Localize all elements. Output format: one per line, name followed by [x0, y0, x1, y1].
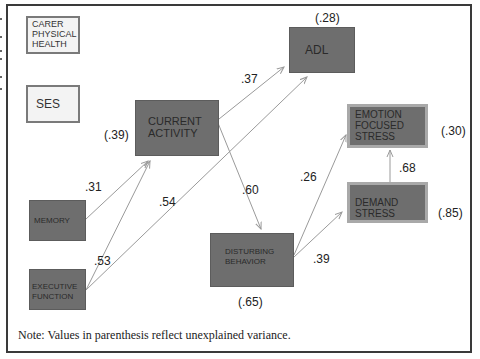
node-text: STRESS	[355, 131, 425, 142]
node-text: ACTIVITY	[148, 127, 218, 139]
node-text: CURRENT	[148, 115, 218, 127]
node-text: FUNCTION	[32, 292, 85, 302]
coef-executive-to-current-activity: .53	[94, 254, 111, 268]
coef-executive-to-adl: .54	[159, 195, 176, 209]
coef-current-activity-to-disturbing: .60	[242, 183, 259, 197]
coef-memory-to-current-activity: .31	[85, 180, 102, 194]
node-text: EMOTION	[355, 109, 425, 120]
arrow-disturbing-to-demand	[294, 212, 342, 257]
arrow-current-activity-to-disturbing	[218, 123, 261, 229]
node-current-activity: CURRENT ACTIVITY	[135, 100, 219, 156]
node-disturbing-behavior: DISTURBING BEHAVIOR	[210, 233, 294, 287]
node-emotion-focused-stress: EMOTION FOCUSED STRESS	[347, 104, 428, 148]
coef-demand-to-emotion: .68	[399, 161, 416, 175]
coef-disturbing-to-emotion: .26	[300, 170, 317, 184]
node-text: FOCUSED	[355, 120, 425, 131]
coef-disturbing-to-demand: .39	[313, 252, 330, 266]
node-text: PHYSICAL	[32, 29, 78, 39]
node-text: DISTURBING	[225, 247, 293, 257]
coef-current-activity-to-adl: .37	[241, 72, 258, 86]
variance-adl: (.28)	[315, 11, 340, 25]
node-text: SES	[36, 98, 78, 110]
node-adl: ADL	[289, 27, 355, 73]
node-text: HEALTH	[32, 39, 78, 49]
variance-current-activity: (.39)	[104, 128, 129, 142]
node-executive-function: EXECUTIVE FUNCTION	[29, 269, 86, 310]
node-text: CARER	[32, 19, 78, 29]
diagram-note: Note: Values in parenthesis reflect unex…	[18, 328, 291, 343]
node-ses: SES	[26, 85, 80, 123]
variance-emotion-focused-stress: (.30)	[441, 124, 466, 138]
variance-disturbing-behavior: (.65)	[238, 295, 263, 309]
node-carer-physical-health: CARER PHYSICAL HEALTH	[26, 16, 80, 54]
node-text: BEHAVIOR	[225, 257, 293, 267]
arrow-disturbing-to-emotion	[294, 135, 346, 255]
node-text: DEMAND	[355, 197, 425, 208]
variance-demand-stress: (.85)	[438, 206, 463, 220]
node-demand-stress: DEMAND STRESS	[347, 182, 428, 223]
node-text: STRESS	[355, 208, 425, 219]
node-memory: MEMORY	[29, 200, 86, 241]
node-text: MEMORY	[34, 215, 85, 227]
node-text: ADL	[305, 44, 354, 56]
node-text: EXECUTIVE	[32, 282, 85, 292]
